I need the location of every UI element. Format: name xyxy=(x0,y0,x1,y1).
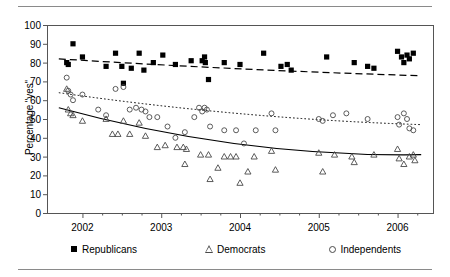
data-point-democrats xyxy=(227,154,233,160)
y-tick-label: 70 xyxy=(15,76,41,87)
open-circle-icon xyxy=(329,246,336,253)
legend-label-republicans: Republicans xyxy=(82,244,137,255)
data-point-independents xyxy=(234,128,239,133)
data-point-democrats xyxy=(109,131,115,137)
chart-legend: Republicans Democrats Independents xyxy=(47,240,433,258)
data-point-independents xyxy=(155,115,160,120)
data-point-democrats xyxy=(351,159,357,165)
y-tick-label: 90 xyxy=(15,38,41,49)
data-point-independents xyxy=(192,115,197,120)
data-point-independents xyxy=(134,105,139,110)
data-point-independents xyxy=(113,86,118,91)
data-point-democrats xyxy=(394,146,400,152)
data-point-republicans xyxy=(203,60,208,65)
data-point-republicans xyxy=(401,60,406,65)
figure: Percentage "yes" 0102030405060708090100 … xyxy=(0,0,450,277)
data-point-republicans xyxy=(103,64,108,69)
data-point-democrats xyxy=(320,169,326,175)
data-point-independents xyxy=(222,128,227,133)
data-point-democrats xyxy=(174,144,180,150)
data-point-independents xyxy=(173,135,178,140)
x-tick-label: 2003 xyxy=(150,222,172,233)
data-point-republicans xyxy=(222,60,227,65)
data-point-independents xyxy=(269,111,274,116)
y-tick-label: 40 xyxy=(15,132,41,143)
data-point-independents xyxy=(273,128,278,133)
data-point-democrats xyxy=(79,118,85,124)
x-tick-label: 2005 xyxy=(308,222,330,233)
y-tick-label: 20 xyxy=(15,170,41,181)
trend-lines xyxy=(59,59,421,155)
data-point-republicans xyxy=(324,54,329,59)
data-point-independents xyxy=(405,117,410,122)
legend-item-democrats[interactable]: Democrats xyxy=(205,244,265,255)
legend-item-independents[interactable]: Independents xyxy=(327,244,401,255)
data-point-independents xyxy=(344,111,349,116)
data-point-republicans xyxy=(151,60,156,65)
data-point-independents xyxy=(165,124,170,129)
data-point-independents xyxy=(64,75,69,80)
data-point-independents xyxy=(127,107,132,112)
data-point-democrats xyxy=(198,152,204,158)
open-triangle-icon xyxy=(205,245,213,253)
data-point-democrats xyxy=(120,118,126,124)
data-point-independents xyxy=(147,115,152,120)
data-point-independents xyxy=(401,111,406,116)
data-point-republicans xyxy=(119,64,124,69)
data-point-democrats xyxy=(412,157,418,163)
data-point-republicans xyxy=(237,62,242,67)
y-tick-label: 100 xyxy=(15,20,41,31)
data-point-republicans xyxy=(278,64,283,69)
data-point-independents xyxy=(182,130,187,135)
data-point-republicans xyxy=(371,66,376,71)
data-point-independents xyxy=(365,117,370,122)
data-point-republicans xyxy=(399,54,404,59)
data-point-independents xyxy=(330,113,335,118)
data-point-republicans xyxy=(395,49,400,54)
data-point-republicans xyxy=(80,54,85,59)
data-point-democrats xyxy=(401,161,407,167)
data-point-democrats xyxy=(154,144,160,150)
data-point-democrats xyxy=(221,154,227,160)
data-point-democrats xyxy=(162,142,168,148)
scatter-plot xyxy=(0,0,450,277)
legend-label-democrats: Democrats xyxy=(217,244,265,255)
data-point-independents xyxy=(208,124,213,129)
data-point-democrats xyxy=(272,167,278,173)
y-tick-label: 10 xyxy=(15,189,41,200)
data-point-democrats xyxy=(215,165,221,171)
data-point-democrats xyxy=(127,131,133,137)
data-point-democrats xyxy=(396,155,402,161)
x-tick-label: 2002 xyxy=(71,222,93,233)
y-tick-label: 80 xyxy=(15,57,41,68)
data-point-democrats xyxy=(205,152,211,158)
x-tick-label: 2004 xyxy=(229,222,251,233)
legend-label-independents: Independents xyxy=(340,244,401,255)
y-tick-label: 60 xyxy=(15,95,41,106)
data-point-democrats xyxy=(237,180,243,186)
data-point-republicans xyxy=(129,66,134,71)
data-point-republicans xyxy=(189,58,194,63)
data-point-republicans xyxy=(66,62,71,67)
data-point-republicans xyxy=(202,54,207,59)
data-point-republicans xyxy=(141,68,146,73)
data-point-independents xyxy=(96,107,101,112)
data-point-republicans xyxy=(70,41,75,46)
data-point-independents xyxy=(397,122,402,127)
filled-square-icon xyxy=(71,246,77,252)
y-tick-label: 50 xyxy=(15,114,41,125)
data-point-democrats xyxy=(207,176,213,182)
data-point-democrats xyxy=(142,133,148,139)
data-point-democrats xyxy=(245,169,251,175)
data-point-republicans xyxy=(173,62,178,67)
y-tick-label: 30 xyxy=(15,151,41,162)
data-point-democrats xyxy=(115,131,121,137)
data-point-republicans xyxy=(365,64,370,69)
data-point-republicans xyxy=(289,68,294,73)
data-point-republicans xyxy=(352,60,357,65)
data-point-democrats xyxy=(233,154,239,160)
data-point-democrats xyxy=(136,120,142,126)
data-point-republicans xyxy=(113,51,118,56)
legend-item-republicans[interactable]: Republicans xyxy=(69,244,137,255)
data-point-republicans xyxy=(160,52,165,57)
